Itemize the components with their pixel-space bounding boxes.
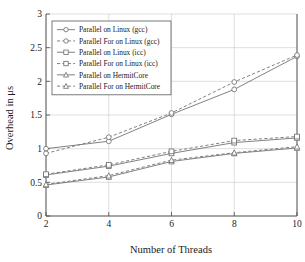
- legend-entry-label: Parallel on Linux (icc): [79, 48, 146, 57]
- x-tick-label: 4: [106, 219, 111, 229]
- data-point-marker: [232, 138, 237, 143]
- x-tick-label: 6: [169, 219, 174, 229]
- legend-entry-label: Parallel For on HermitCore: [79, 82, 161, 91]
- data-point-marker: [44, 151, 49, 156]
- x-tick-label: 2: [44, 219, 49, 229]
- data-point-marker: [295, 53, 300, 58]
- y-tick-label: 2.5: [30, 43, 42, 53]
- data-point-marker: [64, 61, 68, 65]
- data-point-marker: [44, 146, 49, 151]
- y-tick-label: 1: [37, 144, 42, 154]
- y-tick-label: 3: [37, 9, 42, 19]
- y-tick-label: 0: [37, 211, 42, 221]
- overhead-vs-threads-line-chart: 246810 00.511.522.53 Parallel on Linux (…: [0, 0, 305, 262]
- x-tick-label: 8: [232, 219, 237, 229]
- data-point-marker: [169, 111, 174, 116]
- chart-figure: 246810 00.511.522.53 Parallel on Linux (…: [0, 0, 305, 262]
- legend-entry-label: Parallel For on Linux (icc): [79, 59, 158, 68]
- data-point-marker: [64, 39, 68, 43]
- chart-legend: Parallel on Linux (gcc)Parallel For on L…: [52, 21, 171, 95]
- data-point-marker: [169, 149, 174, 154]
- data-point-marker: [232, 80, 237, 85]
- data-point-marker: [64, 27, 68, 31]
- data-point-marker: [44, 172, 49, 177]
- y-tick-label: 1.5: [30, 110, 42, 120]
- x-axis-title: Number of Threads: [130, 244, 212, 255]
- legend-entry-label: Parallel on Linux (gcc): [79, 25, 148, 34]
- data-point-marker: [106, 135, 111, 140]
- legend-entry-label: Parallel on HermitCore: [79, 71, 149, 80]
- data-point-marker: [106, 162, 111, 167]
- y-tick-label: 0.5: [30, 178, 42, 188]
- y-axis-title: Overhead in μs: [4, 86, 15, 150]
- legend-entry-label: Parallel For on Linux (gcc): [79, 37, 160, 46]
- x-tick-label: 10: [292, 219, 302, 229]
- data-point-marker: [232, 87, 237, 92]
- y-tick-label: 2: [37, 77, 42, 87]
- data-point-marker: [295, 134, 300, 139]
- data-point-marker: [64, 50, 68, 54]
